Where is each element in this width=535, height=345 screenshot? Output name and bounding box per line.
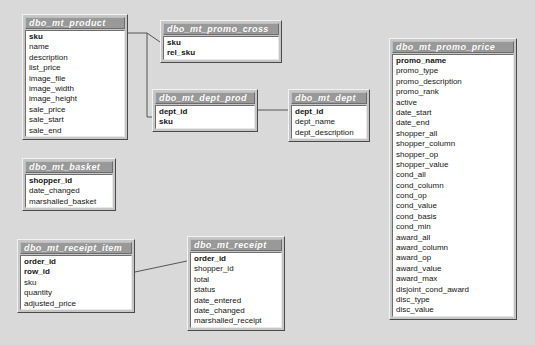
field-list-dept: dept_iddept_namedept_description <box>291 105 367 139</box>
table-dept[interactable]: dbo_mt_deptdept_iddept_namedept_descript… <box>288 89 370 142</box>
field-dept-dept_description[interactable]: dept_description <box>292 128 366 138</box>
field-receipt-marshalled_receipt[interactable]: marshalled_receipt <box>191 316 281 326</box>
table-title-receipt_item: dbo_mt_receipt_item <box>20 242 132 254</box>
field-receipt_item-quantity[interactable]: quantity <box>21 288 131 298</box>
field-product-sale_start[interactable]: sale_start <box>26 115 124 125</box>
field-receipt-date_changed[interactable]: date_changed <box>191 306 281 316</box>
field-promo_price-shopper_all[interactable]: shopper_all <box>393 129 513 139</box>
primary-key-field-dept_prod-dept_id[interactable]: dept_id <box>156 107 254 117</box>
field-receipt_item-adjusted_price[interactable]: adjusted_price <box>21 299 131 309</box>
table-receipt_item[interactable]: dbo_mt_receipt_itemorder_idrow_idskuquan… <box>17 239 135 313</box>
field-promo_price-cond_basis[interactable]: cond_basis <box>393 212 513 222</box>
field-promo_price-award_max[interactable]: award_max <box>393 274 513 284</box>
field-promo_price-disc_type[interactable]: disc_type <box>393 295 513 305</box>
field-promo_price-disc_value[interactable]: disc_value <box>393 305 513 315</box>
table-title-promo_cross: dbo_mt_promo_cross <box>163 23 279 35</box>
table-promo_cross[interactable]: dbo_mt_promo_crossskurel_sku <box>160 20 282 63</box>
table-dept_prod[interactable]: dbo_mt_dept_proddept_idsku <box>152 89 258 132</box>
field-promo_price-disjoint_cond_award[interactable]: disjoint_cond_award <box>393 285 513 295</box>
primary-key-field-basket-shopper_id[interactable]: shopper_id <box>26 176 112 186</box>
field-list-basket: shopper_iddate_changedmarshalled_basket <box>25 174 113 208</box>
field-product-description[interactable]: description <box>26 53 124 63</box>
field-list-promo_price: promo_namepromo_typepromo_descriptionpro… <box>392 54 514 317</box>
field-receipt-shopper_id[interactable]: shopper_id <box>191 264 281 274</box>
field-product-name[interactable]: name <box>26 42 124 52</box>
table-product[interactable]: dbo_mt_productskunamedescriptionlist_pri… <box>22 14 128 140</box>
field-promo_price-award_value[interactable]: award_value <box>393 264 513 274</box>
table-title-product: dbo_mt_product <box>25 17 125 29</box>
field-product-sale_price[interactable]: sale_price <box>26 105 124 115</box>
field-list-receipt_item: order_idrow_idskuquantityadjusted_price <box>20 255 132 310</box>
primary-key-field-product-sku[interactable]: sku <box>26 32 124 42</box>
field-dept-dept_name[interactable]: dept_name <box>292 117 366 127</box>
table-title-dept: dbo_mt_dept <box>291 92 367 104</box>
field-list-receipt: order_idshopper_idtotalstatusdate_entere… <box>190 252 282 328</box>
field-promo_price-shopper_column[interactable]: shopper_column <box>393 139 513 149</box>
primary-key-field-receipt_item-row_id[interactable]: row_id <box>21 267 131 277</box>
primary-key-field-promo_price-promo_name[interactable]: promo_name <box>393 56 513 66</box>
field-promo_price-shopper_value[interactable]: shopper_value <box>393 160 513 170</box>
field-receipt-status[interactable]: status <box>191 285 281 295</box>
table-title-receipt: dbo_mt_receipt <box>190 239 282 251</box>
field-promo_price-cond_all[interactable]: cond_all <box>393 170 513 180</box>
field-promo_price-award_op[interactable]: award_op <box>393 253 513 263</box>
field-promo_price-award_column[interactable]: award_column <box>393 243 513 253</box>
field-promo_price-date_start[interactable]: date_start <box>393 108 513 118</box>
table-basket[interactable]: dbo_mt_basketshopper_iddate_changedmarsh… <box>22 158 116 211</box>
primary-key-field-promo_cross-sku[interactable]: sku <box>164 38 278 48</box>
table-receipt[interactable]: dbo_mt_receiptorder_idshopper_idtotalsta… <box>187 236 285 331</box>
table-title-promo_price: dbo_mt_promo_price <box>392 41 514 53</box>
field-promo_price-award_all[interactable]: award_all <box>393 233 513 243</box>
field-list-dept_prod: dept_idsku <box>155 105 255 129</box>
primary-key-field-promo_cross-rel_sku[interactable]: rel_sku <box>164 48 278 58</box>
field-promo_price-active[interactable]: active <box>393 98 513 108</box>
field-receipt_item-sku[interactable]: sku <box>21 278 131 288</box>
field-basket-marshalled_basket[interactable]: marshalled_basket <box>26 197 112 207</box>
table-title-basket: dbo_mt_basket <box>25 161 113 173</box>
field-promo_price-shopper_op[interactable]: shopper_op <box>393 150 513 160</box>
field-list-product: skunamedescriptionlist_priceimage_fileim… <box>25 30 125 137</box>
field-product-image_width[interactable]: image_width <box>26 84 124 94</box>
field-product-image_height[interactable]: image_height <box>26 94 124 104</box>
field-basket-date_changed[interactable]: date_changed <box>26 186 112 196</box>
field-list-promo_cross: skurel_sku <box>163 36 279 60</box>
primary-key-field-receipt-order_id[interactable]: order_id <box>191 254 281 264</box>
field-receipt-total[interactable]: total <box>191 275 281 285</box>
field-product-list_price[interactable]: list_price <box>26 63 124 73</box>
table-promo_price[interactable]: dbo_mt_promo_pricepromo_namepromo_typepr… <box>389 38 517 320</box>
schema-diagram-canvas: dbo_mt_productskunamedescriptionlist_pri… <box>0 0 535 345</box>
field-promo_price-promo_type[interactable]: promo_type <box>393 66 513 76</box>
field-product-image_file[interactable]: image_file <box>26 74 124 84</box>
field-promo_price-cond_op[interactable]: cond_op <box>393 191 513 201</box>
primary-key-field-dept-dept_id[interactable]: dept_id <box>292 107 366 117</box>
field-promo_price-promo_description[interactable]: promo_description <box>393 77 513 87</box>
primary-key-field-receipt_item-order_id[interactable]: order_id <box>21 257 131 267</box>
table-title-dept_prod: dbo_mt_dept_prod <box>155 92 255 104</box>
field-product-sale_end[interactable]: sale_end <box>26 126 124 136</box>
primary-key-field-dept_prod-sku[interactable]: sku <box>156 117 254 127</box>
field-promo_price-cond_min[interactable]: cond_min <box>393 222 513 232</box>
field-promo_price-cond_column[interactable]: cond_column <box>393 181 513 191</box>
field-promo_price-promo_rank[interactable]: promo_rank <box>393 87 513 97</box>
field-promo_price-cond_value[interactable]: cond_value <box>393 201 513 211</box>
relationship-line-receipt_item-receipt[interactable] <box>135 261 187 272</box>
relationship-line-product-promo_cross[interactable] <box>128 33 160 42</box>
field-promo_price-date_end[interactable]: date_end <box>393 118 513 128</box>
field-receipt-date_entered[interactable]: date_entered <box>191 296 281 306</box>
